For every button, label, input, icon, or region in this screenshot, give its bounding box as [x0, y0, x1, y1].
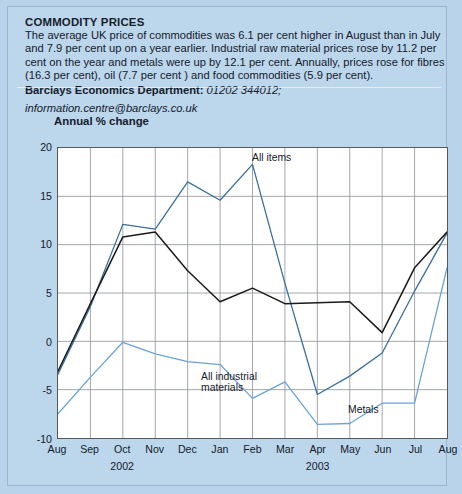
y-tick-10: 10 [18, 239, 52, 249]
series-label-all-industrial-materials-line2: materials [201, 382, 243, 393]
x-tick-12-aug: Aug [428, 443, 462, 455]
y-axis-title: Annual % change [54, 115, 149, 127]
plot-svg [58, 148, 447, 438]
series-label-all-industrial-materials-line1: All industrial [201, 371, 257, 382]
y-tick-15: 15 [18, 191, 52, 201]
x-year-label-2003: 2003 [293, 460, 343, 472]
commodity-prices-chart: Annual % change 20151050-5-10 AugSepOctN… [8, 115, 448, 487]
y-tick-0: 0 [18, 337, 52, 347]
article-text-block: COMMODITY PRICES The average UK price of… [25, 16, 449, 114]
contact-email: information.centre@barclays.co.uk [25, 102, 449, 114]
x-year-label-2002: 2002 [97, 460, 147, 472]
plot-area [57, 147, 448, 439]
department-line: Barclays Economics Department: 01202 344… [25, 83, 449, 97]
y-tick--5: -5 [18, 385, 52, 395]
series-label-all-items: All items [252, 152, 291, 163]
article-body: The average UK price of commodities was … [25, 29, 449, 82]
commodity-prices-panel: COMMODITY PRICES The average UK price of… [7, 6, 447, 486]
gridlines [58, 148, 447, 438]
series-label-metals: Metals [348, 404, 379, 415]
y-tick-20: 20 [18, 142, 52, 152]
divider [17, 87, 441, 88]
page-title: COMMODITY PRICES [25, 16, 449, 28]
department-phone: 01202 344012; [207, 84, 282, 96]
y-tick-5: 5 [18, 288, 52, 298]
department-label: Barclays Economics Department: [25, 84, 203, 96]
